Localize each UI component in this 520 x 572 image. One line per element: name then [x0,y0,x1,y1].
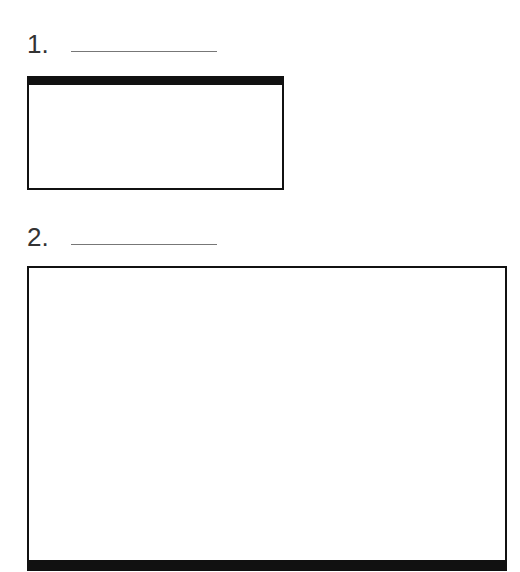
item-2-bottom-bar [29,560,505,569]
item-1-top-bar [29,78,282,85]
item-1-answer-line[interactable] [71,51,217,52]
item-1-box [27,76,284,190]
item-1-number: 1. [27,31,49,57]
item-2-answer-line[interactable] [71,244,217,245]
item-2-number: 2. [27,224,49,250]
item-2-box [27,266,507,571]
